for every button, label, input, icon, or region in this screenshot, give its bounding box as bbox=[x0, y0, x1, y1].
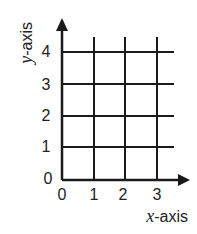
y-tick-0: 0 bbox=[44, 170, 53, 187]
y-tick-3: 3 bbox=[42, 76, 51, 93]
y-axis-label: y-axis bbox=[16, 22, 36, 66]
x-tick-3: 3 bbox=[153, 186, 162, 203]
y-axis-arrow-icon bbox=[56, 18, 68, 31]
x-tick-0: 0 bbox=[58, 186, 67, 203]
y-tick-1: 1 bbox=[42, 138, 51, 155]
coordinate-grid: 4 3 2 1 0 0 1 2 3 x-axis y-axis bbox=[0, 0, 197, 234]
grid-lines bbox=[62, 37, 174, 180]
x-tick-1: 1 bbox=[90, 186, 99, 203]
y-tick-4: 4 bbox=[42, 43, 51, 60]
x-tick-2: 2 bbox=[119, 186, 128, 203]
x-axis-label: x-axis bbox=[145, 206, 188, 226]
x-axis-arrow-icon bbox=[178, 174, 190, 186]
y-tick-2: 2 bbox=[42, 107, 51, 124]
